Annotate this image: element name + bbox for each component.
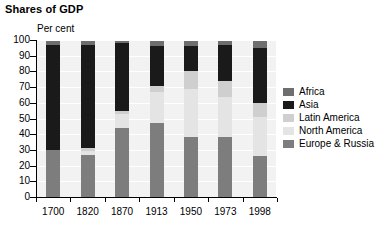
bar-segment	[115, 43, 129, 111]
bar-segment	[218, 137, 232, 197]
x-axis-tick-mark	[174, 198, 175, 202]
y-axis-tick-label: 80	[4, 66, 30, 76]
x-axis-tick-mark	[36, 198, 37, 202]
legend-swatch-icon	[283, 127, 294, 135]
y-axis-tick-label: 90	[4, 51, 30, 61]
bar-segment	[115, 111, 129, 114]
legend-swatch-icon	[283, 114, 294, 122]
bar-segment	[115, 128, 129, 197]
bar-segment	[218, 97, 232, 138]
legend-item-label: Europe & Russia	[299, 139, 374, 149]
bar-segment	[184, 137, 198, 197]
legend-swatch-icon	[283, 140, 294, 148]
y-axis-labels: 1009080706050403020100	[0, 0, 30, 236]
bar-segment	[81, 148, 95, 151]
y-axis-tick-label: 10	[4, 176, 30, 186]
bar-segment	[81, 151, 95, 154]
bar-column	[81, 40, 95, 197]
plot-border-right	[276, 40, 277, 198]
bar-column	[115, 40, 129, 197]
bar-segment	[46, 150, 60, 197]
bar-column	[46, 40, 60, 197]
x-axis-tick-mark	[243, 198, 244, 202]
bar-segment	[184, 46, 198, 71]
bar-segment	[184, 71, 198, 88]
bar-segment	[253, 156, 267, 197]
y-axis-tick-mark	[30, 87, 36, 88]
y-axis-tick-label: 0	[4, 192, 30, 202]
bar-segment	[46, 45, 60, 150]
y-axis-tick-mark	[30, 134, 36, 135]
y-axis-tick-mark	[30, 71, 36, 72]
bar-segment	[253, 40, 267, 48]
bar-segment	[115, 114, 129, 128]
legend-item: Africa	[283, 85, 389, 98]
bar-column	[253, 40, 267, 197]
bar-segment	[218, 45, 232, 81]
y-axis-tick-label: 30	[4, 145, 30, 155]
legend-swatch-icon	[283, 101, 294, 109]
y-axis-tick-mark	[30, 56, 36, 57]
y-axis-line	[36, 40, 37, 198]
legend-item-label: Africa	[299, 87, 325, 97]
legend-swatch-icon	[283, 88, 294, 96]
bar-segment	[253, 117, 267, 156]
legend-item-label: Asia	[299, 100, 318, 110]
x-axis-tick-mark	[208, 198, 209, 202]
x-axis-tick-mark	[70, 198, 71, 202]
y-axis-tick-mark	[30, 40, 36, 41]
y-axis-tick-label: 40	[4, 129, 30, 139]
bar-segment	[253, 48, 267, 103]
x-axis-tick-mark	[105, 198, 106, 202]
y-axis-tick-mark	[30, 166, 36, 167]
x-axis-tick-label: 1998	[240, 206, 280, 217]
bar-segment	[150, 46, 164, 85]
bar-segment	[81, 45, 95, 149]
legend-item: Europe & Russia	[283, 137, 389, 150]
bar-segment	[150, 123, 164, 197]
bar-segment	[81, 155, 95, 197]
y-axis-unit-label: Per cent	[37, 23, 74, 34]
bar-column	[218, 40, 232, 197]
y-axis-tick-mark	[30, 119, 36, 120]
bar-segment	[184, 89, 198, 138]
y-axis-tick-label: 50	[4, 114, 30, 124]
legend-item: Asia	[283, 98, 389, 111]
x-axis-line	[36, 197, 277, 198]
y-axis-tick-mark	[30, 181, 36, 182]
x-axis-tick-mark	[139, 198, 140, 202]
x-axis-tick-mark	[277, 198, 278, 202]
y-axis-tick-label: 60	[4, 98, 30, 108]
y-axis-tick-label: 20	[4, 161, 30, 171]
legend-item: North America	[283, 124, 389, 137]
y-axis-tick-mark	[30, 150, 36, 151]
bar-segment	[150, 86, 164, 92]
chart-container: Shares of GDP Per cent 10090807060504030…	[0, 0, 392, 236]
legend-item: Latin America	[283, 111, 389, 124]
plot-border-top	[36, 40, 277, 41]
y-axis-tick-mark	[30, 103, 36, 104]
y-axis-tick-label: 100	[4, 35, 30, 45]
y-axis-tick-label: 70	[4, 82, 30, 92]
legend: AfricaAsiaLatin AmericaNorth AmericaEuro…	[283, 85, 389, 150]
bar-segment	[150, 92, 164, 123]
bar-segment	[218, 81, 232, 97]
legend-item-label: North America	[299, 126, 362, 136]
bar-column	[184, 40, 198, 197]
bar-column	[150, 40, 164, 197]
legend-item-label: Latin America	[299, 113, 360, 123]
bar-segment	[253, 103, 267, 117]
